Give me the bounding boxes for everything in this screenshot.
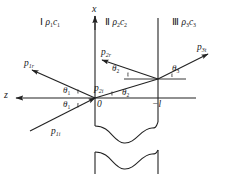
wave-label-p3t: p3t	[197, 43, 206, 53]
region-numeral-1: Ⅰ	[40, 17, 43, 27]
region-speed-sub-3: 3	[193, 22, 196, 28]
wavy-break	[95, 122, 158, 169]
angle-sub-theta3: 3	[176, 68, 179, 74]
wave-sub-p2r: 2r	[106, 52, 111, 58]
region-density-sub-2: 2	[117, 22, 120, 28]
origin-label: 0	[97, 100, 102, 110]
region-label-2: Ⅱ ρ2c2	[105, 18, 127, 28]
angle-sub-theta2-upper: 2	[116, 68, 119, 74]
wave-sub-p1i: 1i	[56, 131, 61, 137]
region-density-sub-1: 1	[50, 22, 53, 28]
x-axis-label: x	[92, 4, 96, 14]
region-label-3: Ⅲ ρ3c3	[172, 18, 196, 28]
angle-label-theta2-lower: θ2	[122, 88, 129, 97]
angle-label-theta1-lower: θ1	[63, 100, 70, 109]
wave-sub-p3t: 3t	[202, 47, 207, 53]
angle-sub-theta1-lower: 1	[67, 104, 70, 110]
angle-label-theta1-upper: θ1	[63, 86, 70, 95]
region-density-sub-3: 3	[186, 22, 189, 28]
wave-label-p2i: p2i	[94, 84, 103, 94]
ray-p2r	[102, 60, 158, 79]
angle-label-theta2-upper: θ2	[112, 64, 119, 73]
region-numeral-2: Ⅱ	[105, 17, 110, 27]
wave-sub-p1r: 1r	[29, 63, 34, 69]
region-numeral-3: Ⅲ	[172, 17, 179, 27]
region-speed-sub-1: 1	[57, 22, 60, 28]
angle-sub-theta1-upper: 1	[67, 90, 70, 96]
angle-label-theta3: θ3	[172, 64, 179, 73]
angle-sub-theta2-lower: 2	[126, 92, 129, 98]
region-speed-sub-2: 2	[124, 22, 127, 28]
wave-label-p1r: p1r	[24, 59, 34, 69]
ray-diagram-figure: x z 0 −l Ⅰ ρ1c1 Ⅱ ρ2c2 Ⅲ ρ3c3 p1r p1i p2…	[0, 0, 238, 176]
wave-label-p1i: p1i	[51, 127, 60, 137]
wave-sub-p2i: 2i	[99, 88, 104, 94]
wave-label-p2r: p2r	[101, 48, 111, 58]
ray-p3t	[158, 54, 208, 79]
region-label-1: Ⅰ ρ1c1	[40, 18, 60, 28]
second-boundary-label: −l	[152, 100, 161, 110]
z-axis-label: z	[4, 90, 8, 100]
